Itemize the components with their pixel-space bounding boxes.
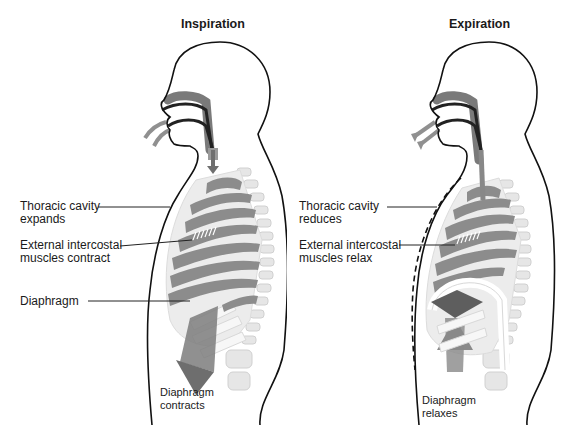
expiration-panel: Expiration: [287, 0, 574, 441]
air-in-arrow-icon: [207, 166, 219, 174]
air-out-arrow-icon: [411, 132, 419, 142]
label-intercostal-contract: External intercostal muscles contract: [20, 239, 122, 265]
label-thoracic-reduces: Thoracic cavity reduces: [299, 200, 379, 226]
label-diaphragm: Diaphragm: [20, 295, 79, 308]
label-diaphragm-contracts: Diaphragm contracts: [160, 386, 214, 412]
inspiration-panel: Inspiration: [0, 0, 287, 441]
label-intercostal-relax: External intercostal muscles relax: [299, 239, 401, 265]
label-thoracic-expands: Thoracic cavity expands: [20, 200, 100, 226]
label-diaphragm-relaxes: Diaphragm relaxes: [422, 394, 476, 420]
